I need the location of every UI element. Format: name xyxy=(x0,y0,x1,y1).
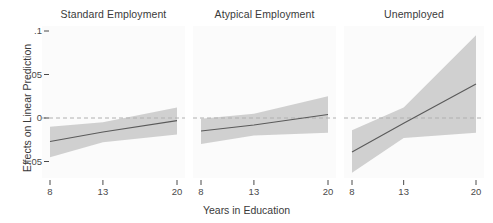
figure-title xyxy=(0,0,493,1)
x-tick-label: 8 xyxy=(338,186,366,197)
panel-background xyxy=(42,26,185,178)
x-tick-label: 8 xyxy=(187,186,215,197)
y-tick-label: .1 xyxy=(0,25,42,36)
y-tick-label: -.05 xyxy=(0,156,42,167)
x-tick-label: 13 xyxy=(390,186,418,197)
x-tick-label: 20 xyxy=(462,186,490,197)
y-tick-label: 0 xyxy=(0,112,42,123)
x-axis-title: Years in Education xyxy=(0,204,493,216)
y-axis-title: Effects on Linear Prediction xyxy=(21,23,33,193)
x-tick-label: 13 xyxy=(89,186,117,197)
forest-margins-figure: Effects on Linear Prediction Years in Ed… xyxy=(0,0,493,223)
x-tick-label: 8 xyxy=(36,186,64,197)
x-tick-label: 13 xyxy=(240,186,268,197)
y-tick-label: .05 xyxy=(0,69,42,80)
panel-title-2: Unemployed xyxy=(312,8,493,20)
